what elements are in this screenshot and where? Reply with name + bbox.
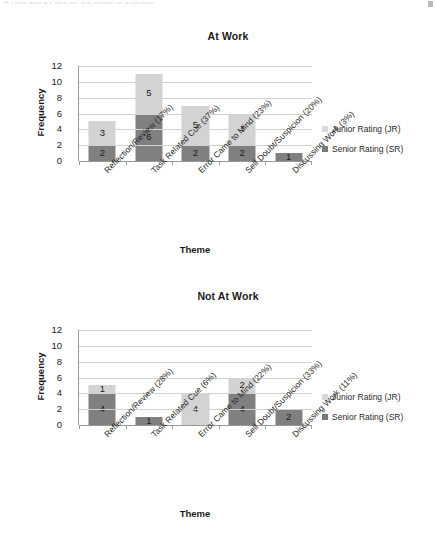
y-tick-label: 6 — [57, 109, 62, 119]
y-tick-label: 8 — [57, 93, 62, 103]
legend-item-junior: Junior Rating (JR) — [322, 392, 403, 402]
legend-label-senior: Senior Rating (SR) — [332, 144, 403, 154]
gridline-6 — [79, 114, 312, 115]
chart-legend: Junior Rating (JR) Senior Rating (SR) — [322, 124, 403, 164]
legend-label-junior: Junior Rating (JR) — [332, 392, 401, 402]
bar-segment-jr[interactable]: 3 — [89, 121, 116, 145]
legend-item-junior: Junior Rating (JR) — [322, 124, 403, 134]
y-tick-label: 12 — [51, 61, 62, 71]
page-corner-mark — [428, 1, 433, 7]
y-tick-label: 10 — [51, 341, 62, 351]
legend-item-senior: Senior Rating (SR) — [322, 412, 403, 422]
x-axis-title: Theme — [50, 508, 340, 519]
chart-legend: Junior Rating (JR) Senior Rating (SR) — [322, 392, 403, 432]
y-tick-label: 4 — [57, 125, 62, 135]
legend-swatch-senior-icon — [322, 414, 328, 420]
bar-segment-jr[interactable]: 5 — [135, 74, 162, 114]
y-tick-label: 10 — [51, 77, 62, 87]
stacked-bar[interactable]: 41 — [89, 385, 116, 425]
legend-item-senior: Senior Rating (SR) — [322, 144, 403, 154]
y-tick-label: 12 — [51, 325, 62, 335]
x-axis-labels: Reflection/Review (28%)Task Related Cue … — [0, 432, 436, 510]
y-tick-label: 8 — [57, 357, 62, 367]
legend-swatch-junior-icon — [322, 394, 328, 400]
gridline-8 — [79, 98, 312, 99]
y-tick-label: 0 — [57, 156, 62, 166]
gridline-12 — [79, 66, 312, 67]
y-tick-label: 0 — [57, 420, 62, 430]
stacked-bar[interactable]: 23 — [89, 121, 116, 161]
legend-label-senior: Senior Rating (SR) — [332, 412, 403, 422]
legend-label-junior: Junior Rating (JR) — [332, 124, 401, 134]
y-axis-ticks: 024681012 — [40, 330, 62, 425]
chart-title: At Work — [20, 30, 436, 42]
legend-swatch-senior-icon — [322, 146, 328, 152]
x-axis-title: Theme — [50, 244, 340, 255]
y-tick-label: 2 — [57, 404, 62, 414]
page-top-scan-artifact: A Time and a Place for the Recall of a D… — [0, 0, 436, 9]
bar-segment-jr[interactable]: 1 — [89, 385, 116, 393]
gridline-6 — [79, 378, 312, 379]
x-axis-labels: Reflection/Review (17%)Task Related Cue … — [0, 168, 436, 246]
legend-swatch-junior-icon — [322, 126, 328, 132]
gridline-8 — [79, 362, 312, 363]
y-tick-label: 6 — [57, 373, 62, 383]
y-tick-label: 4 — [57, 389, 62, 399]
gridline-10 — [79, 82, 312, 83]
chart-at-work: At Work Frequency 024681012 236525241 Re… — [0, 30, 436, 285]
y-axis-ticks: 024681012 — [40, 66, 62, 161]
gridline-10 — [79, 346, 312, 347]
chart-title: Not At Work — [20, 290, 436, 302]
gridline-12 — [79, 330, 312, 331]
chart-not-at-work: Not At Work Frequency 024681012 4114422 … — [0, 290, 436, 553]
y-tick-label: 2 — [57, 140, 62, 150]
top-text-fragment: A Time and a Place for the Recall of a D… — [4, 0, 154, 5]
